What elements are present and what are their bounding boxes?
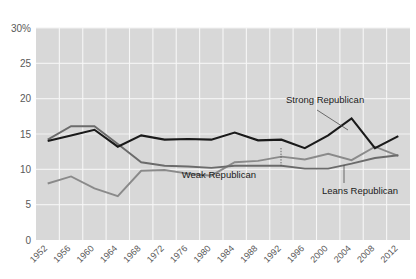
x-axis-tick-label: 1996 <box>285 243 306 264</box>
x-axis-tick-label: 1956 <box>51 243 72 264</box>
x-axis-tick-label: 1968 <box>121 243 142 264</box>
y-axis-tick-label: 10 <box>20 164 32 175</box>
x-axis-tick-label: 1976 <box>168 243 189 264</box>
x-axis-tick-label: 1972 <box>145 243 166 264</box>
x-axis-tick-label: 1952 <box>28 243 49 264</box>
annotation-leans-republican: Leans Republican <box>322 185 398 196</box>
x-axis-tick-label: 2000 <box>308 243 329 264</box>
annotation-strong-republican: Strong Republican <box>286 94 364 105</box>
republican-identification-line-chart: 051015202530% 19521956196019641968197219… <box>0 0 416 279</box>
x-axis-tick-label: 1988 <box>238 243 259 264</box>
x-axis-tick-label: 1960 <box>75 243 96 264</box>
x-axis-tick-label: 1964 <box>98 243 119 264</box>
x-axis-tick-label: 1984 <box>215 243 236 264</box>
x-axis-tick-label: 1992 <box>262 243 283 264</box>
x-axis-tick-labels: 1952195619601964196819721976198019841988… <box>28 243 400 264</box>
annotation-weak-republican: Weak Republican <box>182 169 256 180</box>
x-axis-tick-label: 2008 <box>355 243 376 264</box>
y-axis-tick-label: 20 <box>20 93 32 104</box>
y-axis-tick-label: 5 <box>25 199 31 210</box>
y-axis-tick-label: 30% <box>11 23 31 34</box>
y-axis-tick-label: 25 <box>20 58 32 69</box>
y-axis-tick-label: 15 <box>20 129 32 140</box>
chart-svg: 051015202530% 19521956196019641968197219… <box>0 0 416 279</box>
y-axis-tick-labels: 051015202530% <box>11 23 31 246</box>
x-axis-tick-label: 2004 <box>332 243 353 264</box>
y-axis-tick-label: 0 <box>25 235 31 246</box>
x-axis-tick-label: 1980 <box>191 243 212 264</box>
x-axis-tick-label: 2012 <box>378 243 399 264</box>
